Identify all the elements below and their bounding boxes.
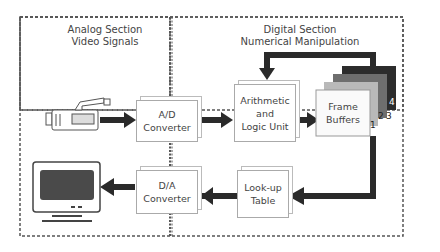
lut-label-1: Look-up bbox=[244, 181, 282, 194]
alu-label-1: Arithmetic bbox=[240, 94, 289, 107]
alu-label-3: Logic Unit bbox=[241, 120, 288, 133]
digital-section-title: Digital Section bbox=[230, 24, 370, 36]
frame-buffer-number-2: 2 bbox=[378, 111, 384, 121]
frame-label-1: Frame bbox=[328, 100, 358, 113]
alu-label-2: and bbox=[256, 107, 274, 120]
frame-buffers-label: Frame Buffers bbox=[316, 90, 370, 136]
frame-buffer-number-3: 3 bbox=[386, 111, 392, 121]
frame-buffer-number-1: 1 bbox=[370, 120, 376, 130]
video-camera-icon bbox=[46, 98, 110, 130]
lut-label-2: Table bbox=[251, 194, 276, 207]
da-converter-block: D/A Converter bbox=[136, 170, 198, 214]
analog-section-subtitle: Video Signals bbox=[50, 36, 160, 48]
analog-section-title: Analog Section bbox=[50, 24, 160, 36]
ad-label-2: Converter bbox=[143, 121, 190, 134]
alu-block: Arithmetic and Logic Unit bbox=[234, 84, 296, 142]
da-label-1: D/A bbox=[158, 179, 175, 192]
frame-label-2: Buffers bbox=[326, 113, 360, 126]
da-label-2: Converter bbox=[143, 192, 190, 205]
frame-buffer-number-4: 4 bbox=[389, 97, 395, 107]
digital-section-label: Digital Section Numerical Manipulation bbox=[230, 24, 370, 48]
monitor-icon bbox=[33, 162, 100, 222]
digital-section-subtitle: Numerical Manipulation bbox=[230, 36, 370, 48]
analog-section-label: Analog Section Video Signals bbox=[50, 24, 160, 48]
ad-label-1: A/D bbox=[158, 108, 175, 121]
ad-converter-block: A/D Converter bbox=[136, 100, 198, 142]
lookup-table-block: Look-up Table bbox=[237, 170, 289, 218]
